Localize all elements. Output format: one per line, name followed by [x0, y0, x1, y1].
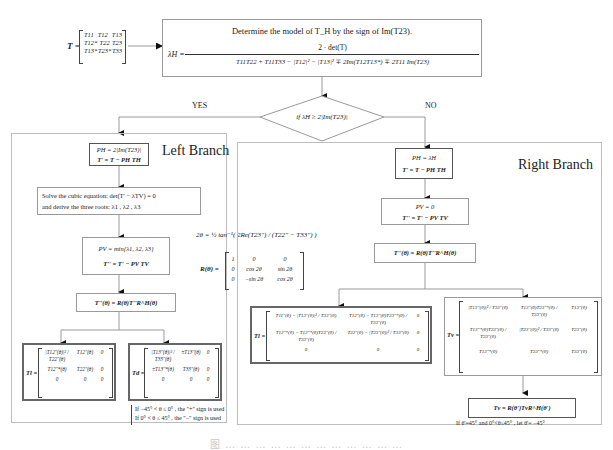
matrix-cell: T23*	[98, 47, 111, 55]
rotation-matrix-label: R(θ) =	[200, 264, 219, 274]
matrix-bracket-right	[109, 348, 113, 398]
right-step-1: PH = λH T' = T − PH TH	[395, 148, 453, 179]
matrix-bracket-right	[122, 30, 126, 64]
matrix-cell: T33	[112, 47, 122, 55]
sign-note-line-2: If 0° < θ ≤ 45° , the "−" sign is used	[135, 414, 221, 422]
matrix-cell: T13''*(θ)T23''(θ) / T33''(θ)	[463, 326, 513, 340]
sign-note-line-1: If −45° < θ ≤ 0° , the "+" sign is used	[135, 405, 224, 413]
input-matrix-label: T =	[67, 41, 80, 51]
matrix-cell: T33''(θ)	[178, 366, 204, 373]
matrix-cell: 0	[204, 376, 212, 383]
matrix-cell: T23''(θ)	[565, 326, 593, 340]
left-step-3: PV = min{λ1, λ2, λ3} T'' = T' − PV TV	[82, 237, 170, 275]
right-result-tl: Tl = T11''(θ) − |T13''(θ)|² / T33''(θ)T1…	[250, 306, 432, 364]
right-step-2-line-2: T'' = T' − PV TV	[382, 214, 468, 222]
matrix-cell: T13*	[84, 47, 97, 55]
matrix-cell: T22''(θ) − |T23''(θ)|² / T33''(θ)	[342, 329, 414, 343]
matrix-cell: 0	[414, 312, 422, 326]
matrix-cell: 0	[178, 376, 204, 383]
right-step-3: T''(θ) = R(θ)T''R^H(θ)	[374, 243, 476, 263]
left-step-1-line-2: T' = T − PH TH	[90, 156, 148, 164]
matrix-cell: T23''*(θ)	[513, 348, 565, 355]
tl-label: Tl =	[26, 369, 37, 377]
right-result-tv: Tv = |T13''(θ)|² / T33''(θ)T13''(θ)T23''…	[444, 297, 602, 376]
tl-label: Tl =	[254, 332, 265, 340]
model-determination-title: Determine the model of T_H by the sign o…	[163, 26, 481, 36]
matrix-cell: ±T13''(θ)	[178, 349, 204, 363]
matrix-cell: T13	[112, 31, 122, 39]
matrix-cell: T12''*(θ) − T13''*(θ)T23''(θ) / T33''(θ)	[270, 329, 342, 343]
matrix-cell: T33''(θ)	[565, 348, 593, 355]
matrix-cell: T13''(θ)	[565, 304, 593, 318]
fraction-bar	[185, 54, 479, 55]
matrix-cell: T12	[98, 31, 108, 39]
right-branch-panel	[237, 142, 602, 425]
right-step-3-line-1: T''(θ) = R(θ)T''R^H(θ)	[375, 249, 475, 257]
matrix-cell: |T12''(θ)|² / T22''(θ)	[42, 349, 72, 363]
right-step-4-line-1: Tv = R(θ')TvR^H(θ')	[469, 404, 575, 412]
right-step-2-line-1: PV = 0	[382, 203, 468, 211]
matrix-cell: T23	[112, 39, 122, 47]
left-result-tl: Tl = |T12''(θ)|² / T22''(θ)T12''(θ)0 T12…	[22, 343, 116, 401]
tv-label: Tv =	[447, 331, 459, 339]
right-step-1-line-1: PH = λH	[396, 154, 452, 162]
left-step-3-line-1: PV = min{λ1, λ2, λ3}	[83, 245, 169, 253]
matrix-cell: 0	[204, 366, 212, 373]
matrix-cell: |T13''(θ)|² / T33''(θ)	[148, 349, 178, 363]
left-result-td: Td = |T13''(θ)|² / T33''(θ)±T13''(θ)0 ±T…	[128, 343, 222, 401]
decision-condition: if λH ≥ 2|Im(T23)|	[262, 112, 382, 122]
matrix-cell: 0	[342, 346, 414, 353]
matrix-cell: 0	[414, 329, 422, 343]
left-step-4: T''(θ) = R(θ)T''R^H(θ)	[76, 293, 176, 312]
right-branch-title: Right Branch	[518, 157, 593, 173]
matrix-cell: T13''(θ)T23''*(θ) / T33''(θ)	[513, 304, 565, 318]
matrix-cell: T12''(θ) − T13''(θ)T23''*(θ) / T33''(θ)	[342, 312, 414, 326]
left-step-1-line-1: PH = 2|Im(T23)|	[90, 146, 148, 154]
left-step-3-line-2: T'' = T' − PV TV	[83, 260, 169, 268]
matrix-cell: T12''(θ)	[72, 349, 98, 363]
matrix-cell: 0	[414, 346, 422, 353]
matrix-cell: T22''(θ)	[72, 366, 98, 373]
lambda-h-numerator: 2 · det(T)	[185, 43, 480, 53]
figure-caption: 图 … … … … … … … … … … … …	[0, 436, 613, 450]
matrix-cell: 0	[98, 349, 106, 363]
matrix-bracket-right	[425, 311, 429, 361]
matrix-cell: 0	[98, 376, 106, 383]
matrix-cell: T22	[100, 39, 110, 47]
matrix-cell: T11''(θ) − |T13''(θ)|² / T33''(θ)	[270, 312, 342, 326]
td-label: Td =	[132, 369, 145, 377]
left-branch-title: Left Branch	[162, 143, 229, 159]
yes-label: YES	[192, 101, 207, 111]
matrix-cell: ±T13''*(θ)	[148, 366, 178, 373]
no-label: NO	[425, 101, 437, 111]
right-step-1-line-2: T' = T − PH TH	[396, 166, 452, 174]
matrix-cell: 0	[98, 366, 106, 373]
left-step-2-line-2: and derive the three roots: λ1 , λ2 , λ3	[42, 203, 140, 211]
right-step-2: PV = 0 T'' = T' − PV TV	[381, 198, 469, 225]
matrix-cell: |T23''(θ)|² / T33''(θ)	[513, 326, 565, 340]
sign-note-brace	[131, 405, 134, 425]
matrix-bracket-right	[215, 348, 219, 398]
matrix-bracket-right	[594, 301, 598, 373]
matrix-cell: T11	[84, 31, 94, 39]
model-determination-box: Determine the model of T_H by the sign o…	[162, 19, 482, 77]
matrix-bracket-left	[79, 30, 83, 64]
lambda-h-label: λH =	[168, 50, 185, 60]
left-step-2-line-1: Solve the cubic equation: det(T' − λTV) …	[42, 192, 156, 200]
matrix-cell: 0	[204, 349, 212, 363]
matrix-cell: T13''*(θ)	[463, 348, 513, 355]
matrix-cell: 0	[148, 376, 178, 383]
matrix-cell: 0	[42, 376, 72, 383]
theta-prime-note: If θ'=45° and 0°<θ≤45° , let θ'= −45°	[456, 419, 545, 427]
matrix-cell: T12*	[84, 39, 97, 47]
matrix-cell: |T13''(θ)|² / T33''(θ)	[463, 304, 513, 318]
left-step-2: Solve the cubic equation: det(T' − λTV) …	[37, 187, 201, 215]
matrix-cell: 0	[72, 376, 98, 383]
matrix-cell: 0	[270, 346, 342, 353]
left-step-4-line-1: T''(θ) = R(θ)T''R^H(θ)	[77, 299, 175, 307]
matrix-cell: T12''*(θ)	[42, 366, 72, 373]
right-step-4: Tv = R(θ')TvR^H(θ')	[468, 398, 576, 418]
lambda-h-denominator: T11T22 + T11T33 − |T12|² − |T13|² ∓ 2Im(…	[185, 57, 480, 67]
left-step-1: PH = 2|Im(T23)| T' = T − PH TH	[89, 143, 149, 166]
